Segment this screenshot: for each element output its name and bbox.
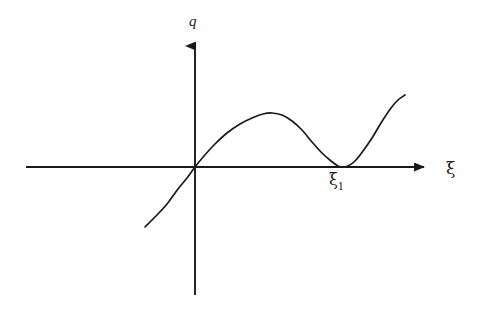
axes-group: [26, 46, 424, 295]
figure-container: q ξ ξ1: [0, 0, 482, 325]
root-label: ξ1: [329, 172, 344, 188]
root-label-symbol: ξ: [329, 170, 338, 189]
x-axis-label: ξ: [446, 160, 455, 177]
curve-group: [145, 95, 405, 227]
root-label-subscript: 1: [338, 179, 344, 193]
q-curve-path: [145, 95, 405, 227]
y-axis-label: q: [189, 14, 197, 29]
plot-svg: [0, 0, 482, 325]
